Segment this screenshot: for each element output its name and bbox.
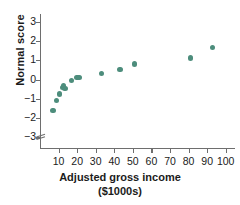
y-tick-mark <box>36 41 41 42</box>
data-point <box>69 78 74 83</box>
axis-break-icon <box>35 126 47 142</box>
x-tick-mark <box>189 148 190 153</box>
y-tick-mark <box>36 60 41 61</box>
data-point <box>188 55 193 60</box>
data-point <box>57 91 62 96</box>
x-tick-mark <box>77 148 78 153</box>
x-tick-mark <box>226 148 227 153</box>
y-tick-label: 1 <box>14 53 36 65</box>
data-point <box>132 61 137 66</box>
x-tick-label: 100 <box>213 155 239 167</box>
x-tick-mark <box>207 148 208 153</box>
x-tick-mark <box>151 148 152 153</box>
x-tick-mark <box>96 148 97 153</box>
data-point <box>99 71 104 76</box>
x-tick-mark <box>170 148 171 153</box>
data-point <box>210 45 215 50</box>
x-tick-mark <box>114 148 115 153</box>
y-tick-label: 2 <box>14 34 36 46</box>
y-tick-label: −1 <box>14 92 36 104</box>
y-tick-label: −3 <box>14 130 36 142</box>
x-axis-title: Adjusted gross income ($1000s) <box>0 170 240 198</box>
data-point <box>54 98 59 103</box>
x-axis-line <box>40 148 235 149</box>
x-tick-mark <box>59 148 60 153</box>
y-tick-mark <box>36 99 41 100</box>
x-tick-mark <box>133 148 134 153</box>
y-tick-label: 3 <box>14 15 36 27</box>
data-point <box>62 86 67 91</box>
data-point <box>50 108 55 113</box>
y-tick-label: 0 <box>14 73 36 85</box>
data-point <box>117 67 122 72</box>
y-tick-label: −2 <box>14 111 36 123</box>
x-axis-title-main: Adjusted gross income <box>59 171 181 183</box>
x-axis-title-units: ($1000s) <box>0 184 240 198</box>
y-tick-mark <box>36 118 41 119</box>
y-tick-mark <box>36 22 41 23</box>
y-tick-mark <box>36 80 41 81</box>
plot-area: 3210−1−2−3 102030405060708090100 <box>40 14 235 149</box>
data-point <box>76 75 81 80</box>
normal-probability-plot-figure: Normal score 3210−1−2−3 1020304050607080… <box>0 0 240 205</box>
